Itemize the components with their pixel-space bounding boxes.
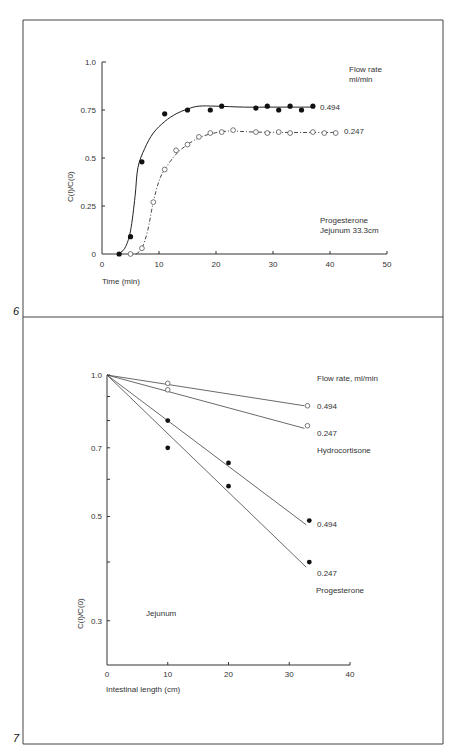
data-point-filled: [307, 560, 312, 565]
chart-fig7: 0102030400.30.50.71.0Intestinal length (…: [76, 371, 378, 694]
x-tick-label: 30: [269, 260, 278, 269]
curve-0494: [118, 106, 313, 254]
data-point-open: [165, 388, 170, 393]
data-point-open: [254, 130, 259, 135]
data-point-filled: [162, 111, 167, 116]
data-point-open: [185, 142, 190, 147]
y-tick-label: 0.5: [91, 512, 103, 521]
x-tick-label: 0: [100, 260, 105, 269]
y-tick-label: 0.75: [80, 106, 96, 115]
x-tick-label: 20: [212, 260, 221, 269]
data-point-open: [208, 131, 213, 136]
chart-fig6: 0102030405000.250.50.751.0Time (min)C(l)…: [66, 58, 392, 286]
data-point-filled: [310, 104, 315, 109]
x-tick-label: 40: [326, 260, 335, 269]
data-point-open: [305, 423, 310, 428]
data-point-open: [265, 131, 270, 136]
series-label: 0.247: [317, 569, 338, 578]
regression-line: [107, 375, 304, 406]
legend-title-line1: Flow rate: [349, 65, 382, 74]
annotation-jejunum: Jejunum: [146, 609, 177, 618]
data-point-open: [231, 128, 236, 133]
data-point-open: [288, 131, 293, 136]
group-label-hydrocortisone: Hydrocortisone: [317, 446, 371, 455]
data-point-open: [165, 381, 170, 386]
data-point-open: [140, 246, 145, 251]
x-tick-label: 10: [163, 670, 172, 679]
y-tick-label: 0.5: [85, 154, 97, 163]
data-point-open: [276, 130, 281, 135]
y-tick-label: 1.0: [91, 371, 103, 380]
data-point-filled: [165, 445, 170, 450]
data-point-filled: [288, 104, 293, 109]
figure-canvas: 6 7 0102030405000.250.50.751.0Time (min)…: [0, 0, 458, 752]
data-point-open: [322, 131, 327, 136]
data-point-filled: [139, 159, 144, 164]
x-tick-label: 0: [105, 670, 110, 679]
data-point-filled: [219, 104, 224, 109]
data-point-open: [305, 403, 310, 408]
data-point-filled: [226, 484, 231, 489]
data-point-filled: [226, 461, 231, 466]
y-tick-label: 0.25: [80, 202, 96, 211]
x-tick-label: 10: [155, 260, 164, 269]
y-tick-label: 1.0: [85, 58, 97, 67]
series-label-0494: 0.494: [320, 103, 341, 112]
regression-line: [107, 375, 304, 428]
y-axis-label: C(l)/C(0): [76, 598, 85, 629]
data-point-filled: [299, 107, 304, 112]
data-point-open: [174, 148, 179, 153]
data-point-filled: [165, 418, 170, 423]
x-axis-label: Time (min): [102, 277, 140, 286]
y-tick-label: 0.3: [91, 617, 103, 626]
curve-0247: [136, 131, 336, 254]
series-label: 0.247: [317, 429, 338, 438]
series-label: 0.494: [317, 520, 338, 529]
data-point-filled: [253, 105, 258, 110]
data-point-filled: [185, 107, 190, 112]
data-point-open: [128, 252, 133, 257]
series-label: 0.494: [317, 402, 338, 411]
data-point-filled: [128, 234, 133, 239]
x-tick-label: 40: [346, 670, 355, 679]
legend-title: Flow rate, ml/min: [317, 374, 378, 383]
data-point-open: [311, 130, 316, 135]
data-point-open: [151, 200, 156, 205]
x-tick-label: 20: [224, 670, 233, 679]
y-axis-label: C(l)/C(0): [66, 171, 75, 202]
data-point-open: [219, 130, 224, 135]
data-point-open: [333, 131, 338, 136]
series-label-0247: 0.247: [344, 127, 365, 136]
x-axis-label: Intestinal length (cm): [106, 685, 181, 694]
y-tick-label: 0: [92, 250, 97, 259]
data-point-open: [162, 167, 167, 172]
group-label-progesterone: Progesterone: [316, 586, 365, 595]
annotation-line2: Jejunum 33.3cm: [320, 226, 379, 235]
data-point-filled: [307, 518, 312, 523]
y-tick-label: 0.7: [91, 444, 103, 453]
annotation-line1: Progesterone: [320, 216, 369, 225]
data-point-open: [197, 134, 202, 139]
data-point-filled: [276, 107, 281, 112]
data-point-filled: [265, 104, 270, 109]
legend-title-line2: ml/min: [349, 75, 373, 84]
figure-number-7: 7: [13, 732, 20, 744]
data-point-filled: [117, 251, 122, 256]
x-tick-label: 30: [285, 670, 294, 679]
regression-line: [107, 375, 306, 525]
x-tick-label: 50: [383, 260, 392, 269]
data-point-filled: [208, 107, 213, 112]
figure-number-6: 6: [13, 305, 20, 317]
regression-line: [107, 375, 306, 567]
